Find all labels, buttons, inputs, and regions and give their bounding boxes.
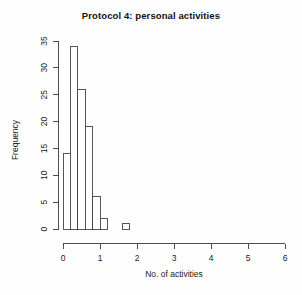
y-tick-label: 0 bbox=[39, 226, 49, 231]
histogram-bars bbox=[63, 46, 130, 229]
x-tick-label: 3 bbox=[172, 253, 177, 263]
y-tick-label: 25 bbox=[39, 90, 49, 100]
histogram-bar bbox=[122, 224, 129, 229]
histogram-bar bbox=[93, 197, 100, 229]
histogram-bar bbox=[85, 127, 92, 229]
y-tick-label: 30 bbox=[39, 63, 49, 73]
x-tick-label: 1 bbox=[98, 253, 103, 263]
histogram-bar bbox=[70, 46, 77, 229]
x-tick-marks bbox=[63, 244, 285, 250]
y-tick-label: 35 bbox=[39, 36, 49, 46]
y-tick-label: 10 bbox=[39, 170, 49, 180]
x-tick-label: 2 bbox=[135, 253, 140, 263]
x-axis-title: No. of activities bbox=[145, 269, 203, 279]
x-tick-labels: 0123456 bbox=[61, 253, 288, 263]
x-tick-label: 5 bbox=[246, 253, 251, 263]
y-tick-labels: 05101520253035 bbox=[39, 36, 49, 231]
y-tick-label: 20 bbox=[39, 117, 49, 127]
x-tick-label: 0 bbox=[61, 253, 66, 263]
histogram-bar bbox=[100, 218, 107, 229]
y-tick-label: 5 bbox=[39, 200, 49, 205]
x-tick-label: 6 bbox=[283, 253, 288, 263]
histogram-plot: 05101520253035 0123456 Frequency No. of … bbox=[0, 0, 302, 295]
histogram-bar bbox=[78, 89, 85, 229]
chart-figure: Protocol 4: personal activities 05101520… bbox=[0, 0, 302, 295]
x-tick-label: 4 bbox=[209, 253, 214, 263]
y-tick-marks bbox=[53, 41, 59, 229]
y-tick-label: 15 bbox=[39, 143, 49, 153]
y-axis-title: Frequency bbox=[10, 119, 20, 160]
histogram-bar bbox=[63, 154, 70, 229]
